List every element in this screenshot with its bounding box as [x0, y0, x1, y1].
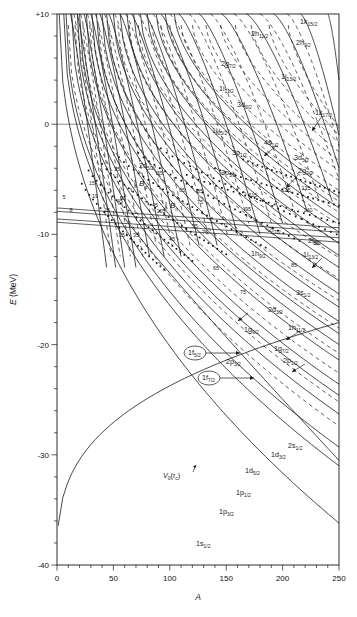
occupancy-marker [260, 244, 262, 246]
magic-number-label: 85 [313, 240, 319, 246]
occupancy-marker [148, 255, 150, 257]
occupancy-marker [317, 199, 319, 201]
occupancy-marker [266, 202, 268, 204]
occupancy-marker [285, 174, 287, 176]
occupancy-marker [256, 198, 258, 200]
occupancy-marker [221, 187, 223, 189]
occupancy-marker [201, 171, 203, 173]
occupancy-marker [223, 203, 225, 205]
occupancy-marker [152, 182, 154, 184]
occupancy-marker [211, 217, 213, 219]
magic-number-label: 15 [89, 180, 95, 186]
occupancy-marker [133, 169, 135, 171]
occupancy-marker [167, 192, 169, 194]
occupancy-marker [299, 240, 301, 242]
magic-number-label: 95 [245, 206, 251, 212]
occupancy-marker [247, 161, 249, 163]
occupancy-marker [189, 165, 191, 167]
occupancy-marker [132, 213, 134, 215]
occupancy-marker [230, 186, 232, 188]
occupancy-marker [128, 165, 130, 167]
occupancy-marker [176, 248, 178, 250]
occupancy-marker [119, 180, 121, 182]
y-tick-label: +10 [35, 10, 49, 19]
occupancy-marker [323, 201, 325, 203]
magic-number-label: 25 [119, 232, 125, 238]
y-tick-label: -40 [37, 561, 49, 570]
occupancy-marker [144, 223, 146, 225]
occupancy-marker [143, 176, 145, 178]
occupancy-marker [212, 245, 214, 247]
magic-number-label: 85 [291, 262, 297, 268]
occupancy-marker [107, 215, 109, 217]
magic-number-label: 105 [157, 208, 166, 214]
occupancy-marker [293, 238, 295, 240]
occupancy-marker [156, 233, 158, 235]
occupancy-marker [166, 152, 168, 154]
occupancy-marker [194, 234, 196, 236]
occupancy-marker [164, 171, 166, 173]
occupancy-marker [133, 241, 135, 243]
occupancy-marker [213, 197, 215, 199]
occupancy-marker [266, 168, 268, 170]
magic-number-label: 55 [157, 170, 163, 176]
occupancy-marker [261, 166, 263, 168]
occupancy-marker [283, 210, 285, 212]
occupancy-marker [300, 179, 302, 181]
occupancy-marker [330, 231, 332, 233]
occupancy-marker [215, 185, 217, 187]
magic-number-label: 85 [197, 188, 203, 194]
occupancy-marker [265, 247, 267, 249]
occupancy-marker [240, 234, 242, 236]
occupancy-marker [203, 181, 205, 183]
occupancy-marker [96, 203, 98, 205]
occupancy-marker [338, 205, 340, 207]
occupancy-marker [148, 179, 150, 181]
occupancy-marker [227, 189, 229, 191]
magic-number-label: 25 [104, 207, 110, 213]
magic-number-label: 35 [114, 166, 120, 172]
occupancy-marker [250, 179, 252, 181]
occupancy-marker [124, 206, 126, 208]
occupancy-marker [186, 174, 188, 176]
occupancy-marker [128, 210, 130, 212]
y-tick-label: -20 [37, 341, 49, 350]
occupancy-marker [328, 202, 330, 204]
occupancy-marker [138, 172, 140, 174]
occupancy-marker [213, 177, 215, 179]
occupancy-marker [108, 192, 110, 194]
occupancy-marker [240, 176, 242, 178]
occupancy-marker [315, 216, 317, 218]
occupancy-marker [276, 187, 278, 189]
x-tick-label: 50 [109, 574, 118, 583]
occupancy-marker [92, 175, 94, 177]
occupancy-marker [196, 209, 198, 211]
occupancy-marker [307, 196, 309, 198]
magic-number-label: 35 [133, 232, 139, 238]
occupancy-marker [182, 200, 184, 202]
occupancy-marker [160, 236, 162, 238]
occupancy-marker [175, 177, 177, 179]
occupancy-marker [168, 242, 170, 244]
occupancy-marker [172, 156, 174, 158]
occupancy-marker [85, 189, 87, 191]
occupancy-marker [137, 194, 139, 196]
occupancy-marker [271, 205, 273, 207]
occupancy-marker [309, 214, 311, 216]
occupancy-marker [190, 231, 192, 233]
occupancy-marker [219, 180, 221, 182]
occupancy-marker [318, 226, 320, 228]
occupancy-marker [245, 236, 247, 238]
occupancy-marker [136, 216, 138, 218]
occupancy-marker [160, 148, 162, 150]
occupancy-marker [152, 229, 154, 231]
occupancy-marker [262, 200, 264, 202]
occupancy-marker [123, 161, 125, 163]
occupancy-marker [225, 253, 227, 255]
occupancy-marker [326, 219, 328, 221]
potential-depth-label-text: V0(rc) [163, 471, 180, 481]
occupancy-marker [240, 211, 242, 213]
occupancy-marker [324, 187, 326, 189]
occupancy-marker [302, 195, 304, 197]
occupancy-marker [221, 223, 223, 225]
